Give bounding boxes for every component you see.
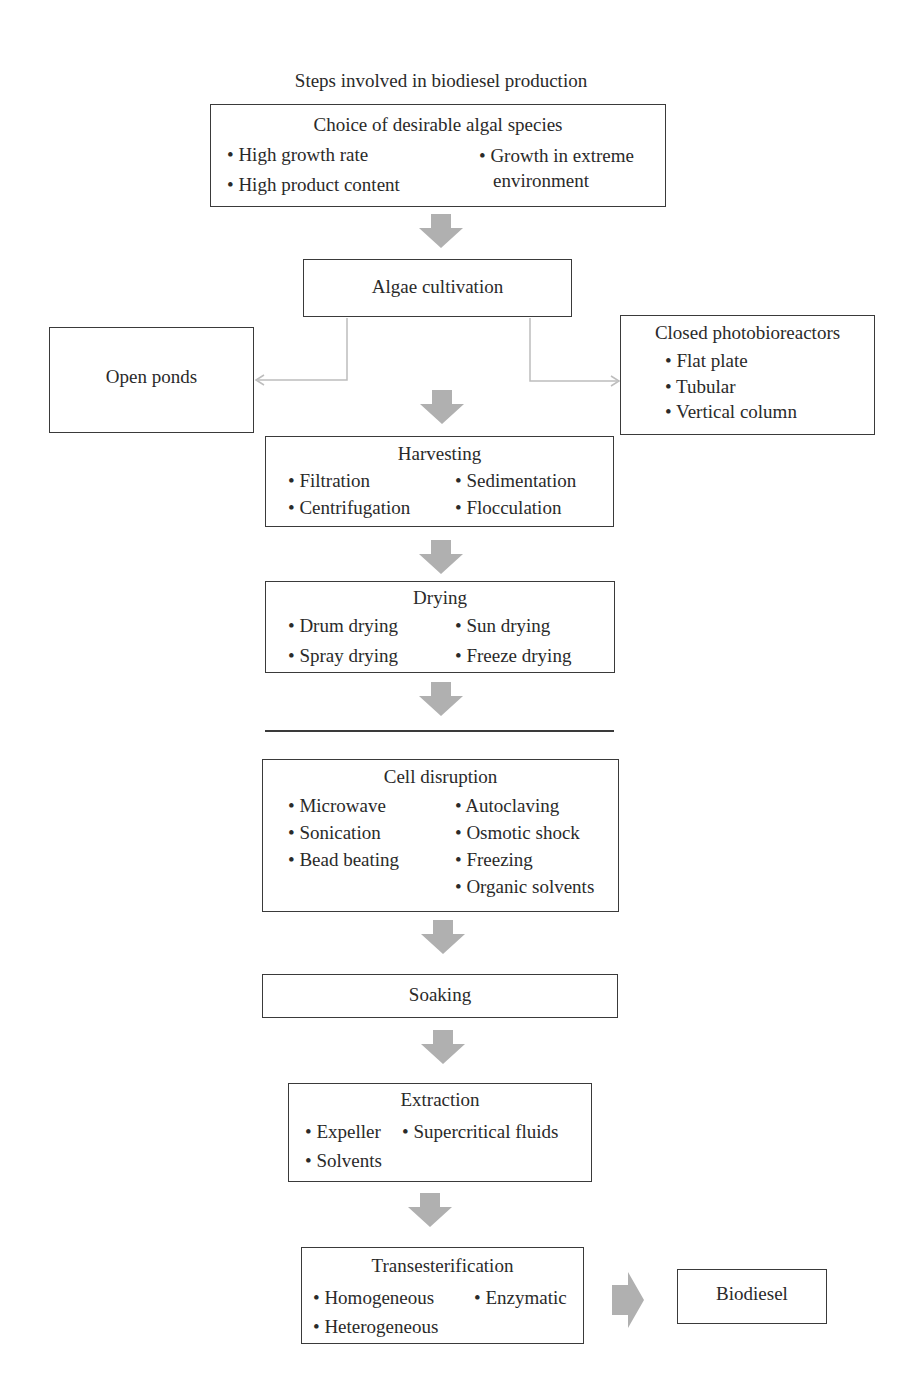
list-item: • Enzymatic [474, 1287, 567, 1309]
down-arrow-icon [417, 682, 465, 716]
node-title: Cell disruption [263, 766, 618, 788]
down-arrow-icon [417, 540, 465, 574]
list-item: • Supercritical fluids [402, 1121, 559, 1143]
list-item: • Homogeneous [313, 1287, 434, 1309]
list-item: • Drum drying [288, 615, 398, 637]
node-drying: Drying • Drum drying • Spray drying • Su… [265, 581, 615, 673]
list-item: • Flat plate [665, 350, 748, 372]
list-item: • Sonication [288, 822, 381, 844]
list-item: • Sun drying [455, 615, 550, 637]
list-item: • Tubular [665, 376, 736, 398]
node-title: Soaking [263, 984, 617, 1006]
separator-line [265, 730, 614, 732]
node-soaking: Soaking [262, 974, 618, 1018]
node-extraction: Extraction • Expeller • Solvents • Super… [288, 1083, 592, 1182]
list-item: • Solvents [305, 1150, 382, 1172]
right-arrow-icon [612, 1272, 646, 1328]
node-transesterification: Transesterification • Homogeneous • Hete… [301, 1247, 584, 1344]
list-item: • Freezing [455, 849, 533, 871]
node-title: Drying [266, 587, 614, 609]
list-item: • Centrifugation [288, 497, 410, 519]
list-item: • Autoclaving [455, 795, 559, 817]
node-cell-disruption: Cell disruption • Microwave • Sonication… [262, 759, 619, 912]
list-item: • Microwave [288, 795, 386, 817]
node-harvesting: Harvesting • Filtration • Centrifugation… [265, 436, 614, 527]
list-item: • Freeze drying [455, 645, 571, 667]
list-item: • Sedimentation [455, 470, 576, 492]
list-item: • Bead beating [288, 849, 399, 871]
list-item: • Flocculation [455, 497, 561, 519]
list-item: • Organic solvents [455, 876, 594, 898]
list-item: • Filtration [288, 470, 370, 492]
list-item: • Spray drying [288, 645, 398, 667]
node-title: Transesterification [302, 1255, 583, 1277]
down-arrow-icon [406, 1193, 454, 1227]
list-item: • Expeller [305, 1121, 381, 1143]
node-biodiesel: Biodiesel [677, 1269, 827, 1324]
list-item: • Vertical column [665, 401, 797, 423]
node-title: Closed photobioreactors [621, 322, 874, 344]
node-open-ponds: Open ponds [49, 327, 254, 433]
down-arrow-icon [419, 920, 467, 954]
node-title: Open ponds [50, 366, 253, 388]
node-closed-photobioreactors: Closed photobioreactors • Flat plate • T… [620, 315, 875, 435]
down-arrow-icon [418, 390, 466, 424]
node-title: Harvesting [266, 443, 613, 465]
down-arrow-icon [419, 1030, 467, 1064]
list-item: • Heterogeneous [313, 1316, 438, 1338]
node-title: Extraction [289, 1089, 591, 1111]
list-item: • Osmotic shock [455, 822, 580, 844]
node-title: Biodiesel [678, 1283, 826, 1305]
